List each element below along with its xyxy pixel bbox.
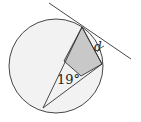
angle-label-19: 19° (57, 72, 80, 87)
angle-label-d: d (94, 40, 102, 54)
geometry-diagram: 19° d (0, 0, 141, 122)
